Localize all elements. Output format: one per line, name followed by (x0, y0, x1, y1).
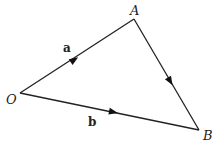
edge-ab (134, 19, 199, 130)
arrowhead-icon-ob (108, 108, 118, 117)
arrowhead-icon-ab (165, 76, 176, 87)
vertex-label-o: O (6, 92, 17, 107)
vector-label-a: a (63, 41, 71, 55)
vertex-label-b: B (202, 128, 213, 143)
arrowhead-icon-oa (69, 54, 80, 65)
edge-oa (20, 19, 134, 93)
vector-triangle-diagram: O A B a b (0, 0, 221, 146)
vector-label-b: b (88, 115, 96, 129)
vertex-label-a: A (129, 3, 139, 18)
